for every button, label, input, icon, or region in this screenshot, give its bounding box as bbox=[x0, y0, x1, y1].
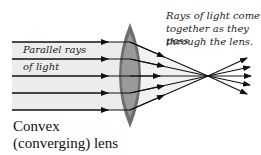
label-converge-line1: Rays of light come bbox=[166, 10, 260, 22]
label-converge-line3: through the lens. bbox=[166, 36, 253, 48]
title-line2: (converging) lens bbox=[13, 135, 118, 152]
title-line1: Convex bbox=[13, 118, 60, 135]
label-parallel-rays-line1: Parallel rays bbox=[23, 44, 86, 56]
diverging-rays bbox=[208, 58, 251, 94]
label-parallel-rays-line2: of light bbox=[23, 61, 59, 73]
